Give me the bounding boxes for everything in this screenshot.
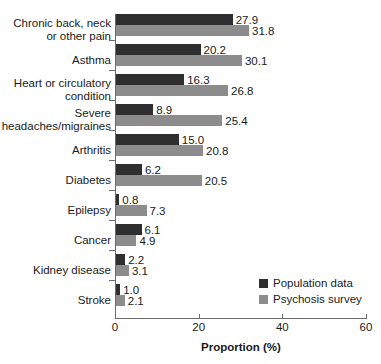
x-axis-tick — [115, 314, 116, 319]
x-axis-line — [115, 318, 367, 319]
legend-swatch-icon-psychosis-survey — [259, 295, 268, 304]
bar-population-data — [116, 104, 153, 115]
bar-chart: Chronic back, neck or other pain27.931.8… — [0, 0, 381, 364]
bar-population-data — [116, 284, 120, 295]
category-label: Asthma — [0, 54, 111, 67]
y-axis-tick — [109, 280, 116, 281]
x-axis-title: Proportion (%) — [115, 341, 367, 353]
bar-psychosis-survey — [116, 205, 147, 216]
legend-label-population-data: Population data — [273, 277, 353, 289]
category-label: Severe headaches/migraines — [0, 107, 111, 133]
bar-group: Asthma20.230.1 — [0, 44, 381, 74]
bar-psychosis-survey — [116, 85, 228, 96]
bar-psychosis-survey — [116, 115, 222, 126]
bar-group: Arthritis15.020.8 — [0, 134, 381, 164]
bar-population-data — [116, 134, 179, 145]
y-axis-tick — [109, 130, 116, 131]
legend-item-population-data: Population data — [259, 275, 362, 291]
category-label: Epilepsy — [0, 204, 111, 217]
category-label: Chronic back, neck or other pain — [0, 17, 111, 43]
bar-psychosis-survey — [116, 235, 136, 246]
bar-group: Chronic back, neck or other pain27.931.8 — [0, 14, 381, 44]
bar-group: Epilepsy0.87.3 — [0, 194, 381, 224]
bar-psychosis-survey — [116, 175, 202, 186]
bar-value-label: 25.4 — [225, 116, 247, 127]
category-label: Kidney disease — [0, 264, 111, 277]
x-axis-tick-label: 40 — [276, 321, 289, 333]
bar-value-label: 2.1 — [128, 296, 144, 307]
bar-psychosis-survey — [116, 55, 242, 66]
y-axis-tick — [109, 70, 116, 71]
bar-value-label: 31.8 — [252, 26, 274, 37]
y-axis-tick — [109, 220, 116, 221]
bar-value-label: 20.8 — [206, 146, 228, 157]
bar-psychosis-survey — [116, 145, 203, 156]
category-label: Arthritis — [0, 144, 111, 157]
legend-label-psychosis-survey: Psychosis survey — [273, 293, 362, 305]
bar-population-data — [116, 164, 142, 175]
bar-population-data — [116, 44, 201, 55]
category-label: Stroke — [0, 294, 111, 307]
x-axis-tick — [199, 314, 200, 319]
x-axis-tick-label: 60 — [360, 321, 373, 333]
y-axis-tick — [109, 160, 116, 161]
bar-psychosis-survey — [116, 265, 129, 276]
category-label: Cancer — [0, 234, 111, 247]
y-axis-tick — [109, 250, 116, 251]
bar-value-label: 26.8 — [231, 86, 253, 97]
bar-psychosis-survey — [116, 295, 125, 306]
y-axis-tick — [109, 100, 116, 101]
category-label: Heart or circulatory condition — [0, 77, 111, 103]
bar-group: Cancer6.14.9 — [0, 224, 381, 254]
x-axis-tick-label: 20 — [192, 321, 205, 333]
bar-population-data — [116, 74, 184, 85]
bar-value-label: 4.9 — [139, 236, 155, 247]
bar-value-label: 7.3 — [150, 206, 166, 217]
bar-psychosis-survey — [116, 25, 249, 36]
bar-value-label: 30.1 — [245, 56, 267, 67]
x-axis-tick — [282, 314, 283, 319]
x-axis-tick — [366, 314, 367, 319]
category-label: Diabetes — [0, 174, 111, 187]
bar-value-label: 3.1 — [132, 266, 148, 277]
bar-group: Heart or circulatory condition16.326.8 — [0, 74, 381, 104]
bar-value-label: 20.5 — [205, 176, 227, 187]
y-axis-tick — [109, 190, 116, 191]
bar-population-data — [116, 14, 233, 25]
legend-swatch-icon-population-data — [259, 279, 268, 288]
bar-population-data — [116, 224, 142, 235]
bar-group: Diabetes6.220.5 — [0, 164, 381, 194]
bar-group: Severe headaches/migraines8.925.4 — [0, 104, 381, 134]
x-axis-tick-label: 0 — [112, 321, 118, 333]
chart-legend: Population data Psychosis survey — [259, 275, 362, 307]
bar-population-data — [116, 254, 125, 265]
y-axis-tick — [109, 40, 116, 41]
legend-item-psychosis-survey: Psychosis survey — [259, 291, 362, 307]
bar-population-data — [116, 194, 119, 205]
